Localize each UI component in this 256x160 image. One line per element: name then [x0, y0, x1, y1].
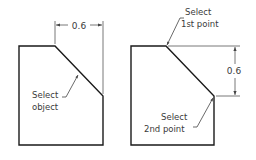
- right-callout-top-line2: 1st point: [181, 19, 219, 29]
- left-callout-line1: Select: [32, 90, 59, 100]
- left-dimension-label: 0.6: [72, 21, 87, 31]
- left-figure: 0.6 Select object: [19, 21, 103, 146]
- right-figure: 0.6 Select 1st point Select 2nd point: [131, 7, 241, 145]
- right-callout-top-line1: Select: [185, 7, 212, 17]
- right-callout-bottom-line2: 2nd point: [144, 124, 185, 134]
- drawing-canvas: 0.6 Select object 0.6 Select 1st point S…: [0, 0, 256, 160]
- right-callout-bottom-line1: Select: [161, 112, 188, 122]
- right-dimension-label: 0.6: [227, 66, 242, 76]
- left-callout-line2: object: [32, 102, 59, 112]
- right-callout-bottom-leader: [193, 98, 213, 127]
- left-callout-leader: [62, 75, 78, 97]
